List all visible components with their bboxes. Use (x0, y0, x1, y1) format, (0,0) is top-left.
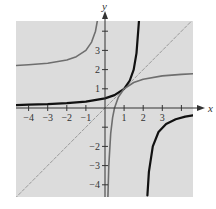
x-tick-label: −2 (61, 112, 72, 123)
y-tick-label: −4 (89, 179, 100, 190)
function-inverse-plot: xy−4−3−2−1123−4−3−2123 (0, 0, 216, 209)
x-tick-label: −3 (42, 112, 53, 123)
x-tick-label: 2 (141, 112, 146, 123)
x-axis-label: x (207, 102, 213, 114)
y-axis-arrow-icon (102, 11, 108, 19)
y-tick-label: 2 (95, 64, 100, 75)
y-axis-label: y (101, 0, 107, 12)
y-tick-label: −3 (89, 160, 100, 171)
x-tick-label: −1 (81, 112, 92, 123)
y-tick-label: 3 (95, 45, 100, 56)
x-tick-label: 3 (160, 112, 165, 123)
x-axis-arrow-icon (197, 105, 205, 111)
y-tick-label: 1 (95, 83, 100, 94)
y-tick-label: −2 (89, 141, 100, 152)
x-tick-label: −4 (23, 112, 34, 123)
x-tick-label: 1 (122, 112, 127, 123)
